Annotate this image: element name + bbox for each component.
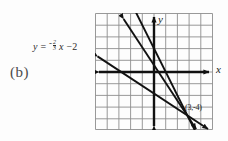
figure-canvas: (b) y = - 2 3 x −2 [0,0,228,141]
coordinate-graph [95,13,213,130]
equation-equals: = [40,41,46,52]
fraction-denominator: 3 [53,45,56,52]
equation-negative-sign: - [49,38,52,48]
plot-line-steep-visible [124,19,197,129]
y-axis-label: y [158,13,163,25]
equation-constant: −2 [67,41,78,52]
equation-annotation: y = - 2 3 x −2 [33,40,77,52]
part-label: (b) [10,64,29,81]
graph-svg [95,13,213,130]
plot-line-shallow [98,56,209,129]
equation-fraction: 2 3 [53,40,56,52]
equation-variable: x [59,41,63,52]
x-axis-label: x [216,63,221,75]
intersection-point-label: (3,-4) [185,103,202,112]
equation-lhs: y [33,41,37,52]
